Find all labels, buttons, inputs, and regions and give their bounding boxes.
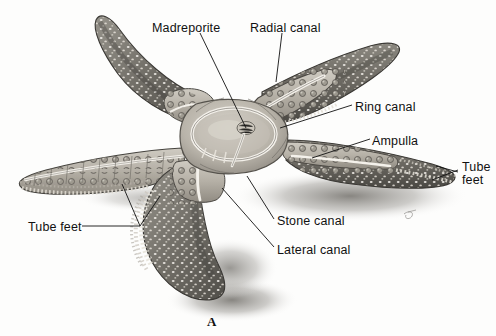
label-ampulla: Ampulla bbox=[372, 135, 418, 149]
central-disc bbox=[180, 98, 288, 174]
label-madreporite: Madreporite bbox=[152, 22, 220, 36]
figure-sea-star-anatomy: Madreporite Radial canal Ring canal Ampu… bbox=[0, 0, 496, 336]
label-lateral-canal: Lateral canal bbox=[277, 244, 351, 258]
figure-letter: A bbox=[207, 314, 216, 330]
sea-star-illustration bbox=[0, 0, 496, 336]
label-tube-feet-left: Tube feet bbox=[28, 221, 82, 235]
label-radial-canal: Radial canal bbox=[250, 22, 321, 36]
label-ring-canal: Ring canal bbox=[355, 101, 416, 115]
label-stone-canal: Stone canal bbox=[277, 215, 345, 229]
label-tube-feet-right-line2: feet bbox=[462, 174, 483, 188]
leader-radial-canal bbox=[276, 33, 282, 82]
